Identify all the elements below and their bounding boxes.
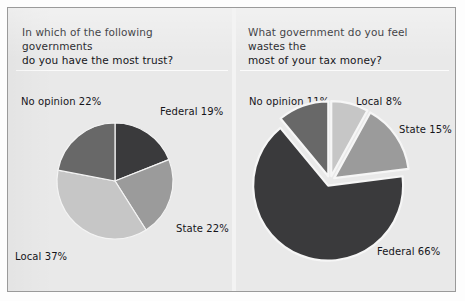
figure-frame: In which of the following governments do… bbox=[7, 7, 456, 292]
pie-waste-pie bbox=[253, 101, 408, 260]
pie-slice-no-opinion bbox=[58, 123, 115, 181]
figure-root: In which of the following governments do… bbox=[0, 0, 465, 301]
pie-trust-pie bbox=[57, 123, 173, 239]
panel-divider bbox=[232, 8, 236, 291]
